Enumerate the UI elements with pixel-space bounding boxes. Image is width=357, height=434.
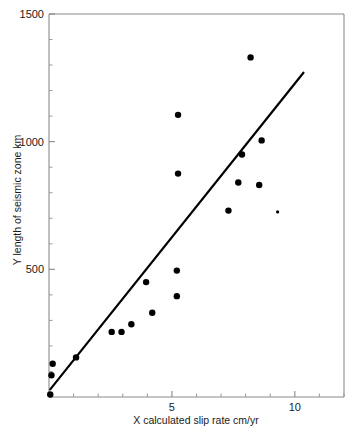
data-point (256, 182, 262, 188)
data-point (47, 391, 53, 397)
y-tick-label: 1500 (20, 8, 44, 20)
data-point (73, 354, 79, 360)
data-point (174, 267, 180, 273)
data-point (118, 329, 124, 335)
x-axis-label: X calculated slip rate cm/yr (133, 414, 259, 426)
scatter-plot-figure: 51050010001500 X calculated slip rate cm… (0, 0, 357, 434)
y-tick-label: 1000 (20, 136, 44, 148)
data-point (239, 151, 245, 157)
y-axis-label: Y length of seismic zone km (11, 134, 23, 265)
data-point (48, 372, 54, 378)
data-point (174, 293, 180, 299)
data-point (235, 179, 241, 185)
data-point (128, 321, 134, 327)
data-point (49, 361, 55, 367)
data-point (225, 207, 231, 213)
figure-background (0, 0, 357, 434)
data-point (143, 279, 149, 285)
x-tick-label: 5 (169, 401, 175, 413)
data-point (276, 210, 279, 213)
data-point (175, 112, 181, 118)
y-tick-label: 500 (26, 263, 44, 275)
data-point (175, 170, 181, 176)
data-point (258, 137, 264, 143)
x-tick-label: 10 (289, 401, 301, 413)
data-point (247, 54, 253, 60)
data-point (149, 310, 155, 316)
data-point (108, 329, 114, 335)
